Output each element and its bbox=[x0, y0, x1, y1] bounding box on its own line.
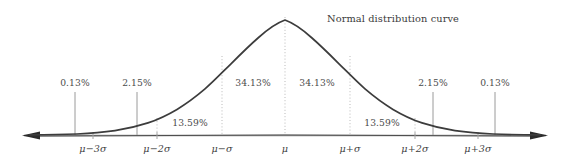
percent-label-right-215: 2.15% bbox=[418, 77, 448, 88]
curve-caption: Normal distribution curve bbox=[327, 13, 459, 24]
bell-curve bbox=[30, 20, 540, 135]
percent-label-right-013: 0.13% bbox=[480, 77, 510, 88]
percent-label-right-3413: 34.13% bbox=[299, 77, 335, 88]
percent-label-left-013: 0.13% bbox=[60, 77, 90, 88]
axis-tick-label-minus-2-sigma: μ−2σ bbox=[143, 143, 170, 154]
percent-label-left-3413: 34.13% bbox=[235, 77, 271, 88]
axis-tick-label-plus-3-sigma: μ+3σ bbox=[464, 143, 491, 154]
axis-tick-label-minus-3-sigma: μ−3σ bbox=[79, 143, 106, 154]
percent-label-left-215: 2.15% bbox=[122, 77, 152, 88]
percent-label-right-1359: 13.59% bbox=[364, 117, 400, 128]
axis-tick-label-plus-2-sigma: μ+2σ bbox=[401, 143, 428, 154]
axis-tick-label-plus-1-sigma: μ+σ bbox=[339, 143, 360, 154]
percent-label-left-1359: 13.59% bbox=[172, 117, 208, 128]
normal-distribution-figure: Normal distribution curve 0.13% 2.15% 13… bbox=[0, 0, 565, 160]
axis-tick-label-mu: μ bbox=[282, 143, 288, 154]
axis-tick-label-minus-1-sigma: μ−σ bbox=[211, 143, 232, 154]
